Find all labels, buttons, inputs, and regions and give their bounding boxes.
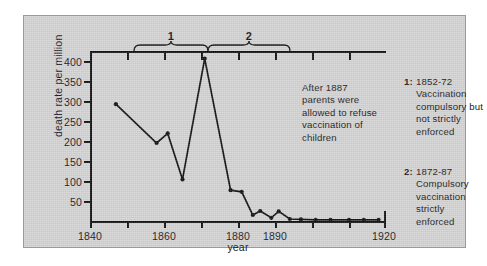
legend-2-line-5: enforced <box>416 216 487 228</box>
y-tick-label-350: 350 <box>64 77 82 88</box>
center-annotation-line-4: vaccination of <box>302 119 398 131</box>
center-annotation-line-5: children <box>302 132 398 144</box>
legend-entry-2: 2: 1872-87 Compulsory vaccination strict… <box>404 166 487 228</box>
y-axis-label: death rate per million <box>52 35 64 137</box>
y-tick-label-200: 200 <box>64 137 82 148</box>
legend-entry-1: 1: 1852-72 Vaccination compulsory but no… <box>404 76 487 138</box>
brace-label-1: 1 <box>168 30 174 42</box>
x-tick-label-1840: 1840 <box>78 231 102 242</box>
period-braces: 1 2 <box>90 33 386 53</box>
center-annotation-line-3: allowed to refuse <box>302 107 398 119</box>
legend-2-line-2: Compulsory <box>416 178 487 190</box>
legend-2-key: 2: <box>404 166 416 228</box>
x-tick-label-1880: 1880 <box>226 231 250 242</box>
legend-2-line-4: strictly <box>416 203 487 215</box>
center-annotation-line-2: parents were <box>302 94 398 106</box>
y-tick-label-300: 300 <box>64 97 82 108</box>
legend-1-line-5: enforced <box>416 126 487 138</box>
center-annotation-line-1: After 1887 <box>302 82 398 94</box>
y-tick-label-50: 50 <box>70 197 82 208</box>
legend-1-line-2: Vaccination <box>416 88 487 100</box>
legend-1-line-4: not strictly <box>416 113 487 125</box>
brace-label-2: 2 <box>246 30 252 42</box>
y-tick-label-400: 400 <box>64 57 82 68</box>
legend-2-line-1: 1872-87 <box>416 166 487 178</box>
chart-panel: death rate per million 1 2 400 350 300 2… <box>23 15 466 248</box>
y-tick-label-250: 250 <box>64 117 82 128</box>
legend-1-line-3: compulsory but <box>416 101 487 113</box>
x-tick-label-1920: 1920 <box>372 231 396 242</box>
x-axis-label: year <box>227 241 248 253</box>
x-tick-label-1890: 1890 <box>263 231 287 242</box>
center-annotation: After 1887 parents were allowed to refus… <box>302 82 398 144</box>
y-tick-label-150: 150 <box>64 157 82 168</box>
legend-1-line-1: 1852-72 <box>416 76 487 88</box>
x-tick-label-1860: 1860 <box>152 231 176 242</box>
legend-2-line-3: vaccination <box>416 191 487 203</box>
legend-1-key: 1: <box>404 76 416 138</box>
y-tick-label-100: 100 <box>64 177 82 188</box>
